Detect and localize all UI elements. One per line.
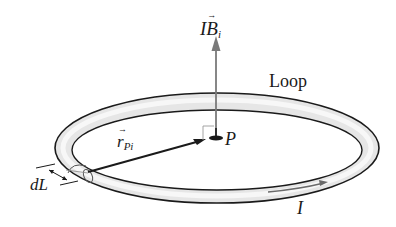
current-label: I	[297, 199, 303, 217]
current-loop	[55, 93, 379, 203]
loop-diagram	[0, 0, 396, 227]
radius-label: rPi	[117, 133, 133, 152]
point-label: P	[225, 130, 236, 148]
field-label: IBi	[200, 19, 221, 40]
diagram-canvas: IBi Loop rPi P dL I	[0, 0, 396, 227]
element-label: dL	[30, 176, 48, 193]
loop-label: Loop	[269, 72, 307, 90]
